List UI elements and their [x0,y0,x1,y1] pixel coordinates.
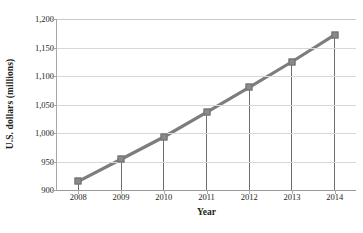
gridline [57,133,356,134]
y-axis-tick-mark [52,48,57,49]
data-point-marker [288,58,295,65]
y-axis-tick-mark [52,133,57,134]
gridline [57,76,356,77]
y-axis-tick-mark [52,190,57,191]
y-axis-tick-mark [52,105,57,106]
y-axis-tick-mark [52,162,57,163]
x-axis-tick-label: 2011 [198,193,215,202]
x-axis-tick-mark [292,190,293,194]
data-point-marker [331,31,338,38]
x-axis-tick-label: 2012 [241,193,258,202]
data-point-marker [75,178,82,185]
x-axis-title: Year [57,207,356,217]
y-axis-tick-labels: 9009501,0001,0501,1001,1501,200 [18,14,54,196]
gridline [57,105,356,106]
x-axis-tick-mark [121,190,122,194]
y-axis-title-text: U.S. dollars (millions) [5,59,15,149]
data-point-marker [246,84,253,91]
plot-area [57,19,356,190]
gridline [57,48,356,49]
line-chart-figure: U.S. dollars (millions) 9009501,0001,050… [0,0,363,233]
x-axis-tick-label: 2009 [113,193,130,202]
y-axis-title: U.S. dollars (millions) [2,16,18,192]
gridline [57,19,356,20]
gridline [57,162,356,163]
x-axis-tick-label: 2013 [283,193,300,202]
x-axis-tick-mark [335,190,336,194]
data-point-marker [118,156,125,163]
y-axis-tick-mark [52,19,57,20]
data-point-marker [160,133,167,140]
x-axis-tick-label: 2008 [70,193,87,202]
x-axis-tick-labels: 2008200920102011201220132014 [57,193,356,207]
x-axis-tick-mark [249,190,250,194]
x-axis-tick-label: 2010 [155,193,172,202]
x-axis-tick-mark [78,190,79,194]
data-point-marker [203,109,210,116]
x-axis-tick-label: 2014 [326,193,343,202]
x-axis-tick-mark [207,190,208,194]
x-axis-tick-mark [164,190,165,194]
y-axis-tick-mark [52,76,57,77]
